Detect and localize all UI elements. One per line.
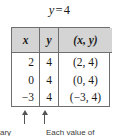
table-body: 2 4 (2, 4) 0 4 (0, 4) −3 4 (−3, 4) [12, 53, 112, 107]
cell-x: −3 [12, 89, 40, 106]
caption-left: ary [0, 128, 44, 136]
values-table: x y (x, y) 2 4 (2, 4) 0 4 (0, 4) −3 [12, 28, 112, 106]
column-header-y: y [40, 28, 59, 53]
up-arrow-icon-y-column [40, 110, 49, 124]
arrow-shaft [24, 113, 25, 124]
values-table-container: x y (x, y) 2 4 (2, 4) 0 4 (0, 4) −3 [11, 27, 110, 107]
table-row: 0 4 (0, 4) [12, 71, 112, 88]
figure-title: y=4 [0, 3, 119, 18]
cell-y: 4 [40, 53, 59, 72]
cell-pair: (0, 4) [59, 71, 113, 88]
caption-right: Each value of [46, 128, 119, 136]
cell-pair: (2, 4) [59, 53, 113, 72]
up-arrow-icon-x-column [20, 110, 29, 124]
title-operator: = [55, 3, 64, 17]
title-variable: y [49, 3, 55, 17]
cell-pair: (−3, 4) [59, 89, 113, 106]
table-row: −3 4 (−3, 4) [12, 89, 112, 106]
table-of-values-figure: y=4 x y (x, y) 2 4 (2, 4) 0 4 (0 [0, 0, 119, 136]
cell-x: 2 [12, 53, 40, 72]
cell-y: 4 [40, 71, 59, 88]
table-header: x y (x, y) [12, 28, 112, 53]
column-header-xy-pair: (x, y) [59, 28, 113, 53]
cell-x: 0 [12, 71, 40, 88]
table-header-row: x y (x, y) [12, 28, 112, 53]
arrow-shaft [44, 113, 45, 124]
title-value: 4 [64, 3, 70, 17]
column-header-x: x [12, 28, 40, 53]
cell-y: 4 [40, 89, 59, 106]
table-row: 2 4 (2, 4) [12, 53, 112, 72]
